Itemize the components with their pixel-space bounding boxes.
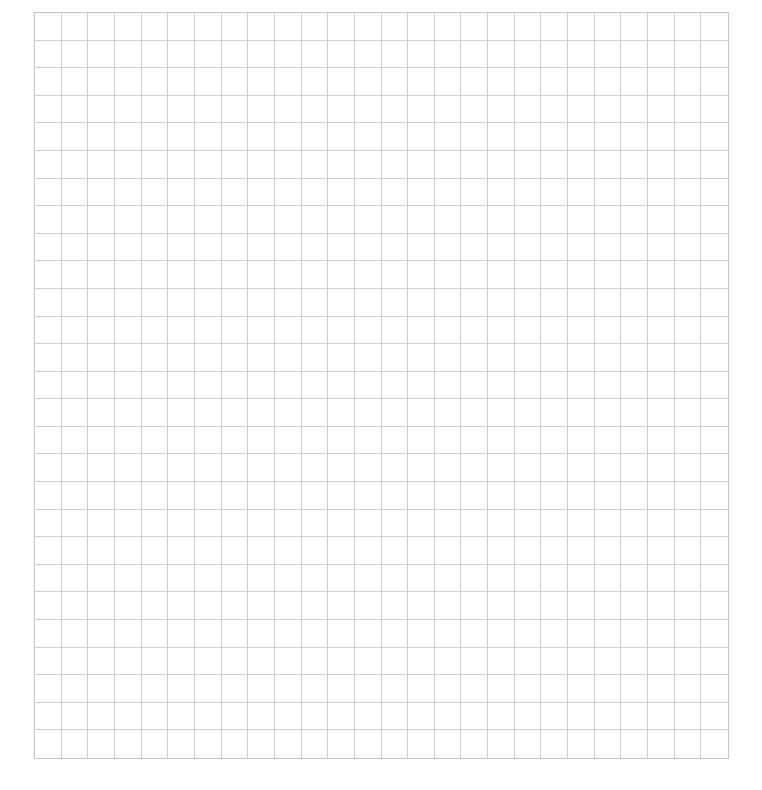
grid-cell [648, 179, 675, 207]
grid-cell [115, 261, 142, 289]
grid-cell [328, 179, 355, 207]
grid-cell [568, 206, 595, 234]
grid-cell [541, 68, 568, 96]
grid-cell [195, 592, 222, 620]
grid-cell [701, 427, 728, 455]
grid-cell [355, 648, 382, 676]
grid-cell [302, 565, 329, 593]
grid-cell [328, 151, 355, 179]
grid-cell [701, 13, 728, 41]
grid-cell [461, 234, 488, 262]
grid-cell [408, 675, 435, 703]
grid-cell [568, 620, 595, 648]
grid-cell [88, 510, 115, 538]
grid-cell [195, 96, 222, 124]
grid-cell [248, 123, 275, 151]
grid-cell [328, 123, 355, 151]
grid-cell [541, 41, 568, 69]
grid-cell [675, 565, 702, 593]
grid-cell [222, 372, 249, 400]
grid-cell [648, 317, 675, 345]
grid-cell [222, 206, 249, 234]
grid-cell [382, 620, 409, 648]
grid-cell [168, 344, 195, 372]
grid-cell [648, 289, 675, 317]
grid-cell [488, 123, 515, 151]
grid-cell [435, 123, 462, 151]
grid-cell [541, 648, 568, 676]
grid-cell [222, 151, 249, 179]
grid-cell [35, 482, 62, 510]
grid-cell [168, 510, 195, 538]
grid-cell [328, 730, 355, 758]
grid-cell [541, 344, 568, 372]
grid-cell [568, 123, 595, 151]
grid-cell [461, 399, 488, 427]
grid-cell [621, 151, 648, 179]
grid-cell [142, 179, 169, 207]
grid-cell [275, 482, 302, 510]
grid-cell [648, 510, 675, 538]
grid-cell [275, 565, 302, 593]
grid-cell [248, 399, 275, 427]
grid-cell [515, 730, 542, 758]
grid-cell [115, 317, 142, 345]
grid-cell [515, 344, 542, 372]
grid-cell [648, 41, 675, 69]
grid-cell [515, 703, 542, 731]
grid-cell [88, 592, 115, 620]
grid-cell [62, 482, 89, 510]
grid-cell [515, 123, 542, 151]
grid-cell [541, 206, 568, 234]
grid-cell [461, 41, 488, 69]
grid-cell [515, 234, 542, 262]
grid-cell [275, 399, 302, 427]
grid-cell [488, 620, 515, 648]
grid-cell [222, 13, 249, 41]
grid-cell [435, 510, 462, 538]
grid-cell [488, 675, 515, 703]
grid-cell [248, 289, 275, 317]
grid-cell [595, 399, 622, 427]
grid-cell [355, 675, 382, 703]
grid-cell [142, 537, 169, 565]
grid-cell [328, 537, 355, 565]
grid-cell [328, 13, 355, 41]
grid-cell [328, 41, 355, 69]
grid-cell [621, 703, 648, 731]
grid-cell [382, 96, 409, 124]
grid-cell [648, 13, 675, 41]
grid-cell [62, 703, 89, 731]
grid-cell [88, 482, 115, 510]
grid-cell [88, 151, 115, 179]
grid-cell [88, 206, 115, 234]
grid-cell [355, 317, 382, 345]
grid-cell [541, 151, 568, 179]
grid-cell [595, 454, 622, 482]
grid-cell [355, 123, 382, 151]
grid-cell [35, 372, 62, 400]
grid-cell [515, 179, 542, 207]
grid-cell [275, 427, 302, 455]
grid-cell [382, 565, 409, 593]
grid-cell [62, 13, 89, 41]
grid-cell [35, 730, 62, 758]
grid-cell [648, 565, 675, 593]
grid-cell [62, 427, 89, 455]
grid-cell [275, 537, 302, 565]
grid-cell [302, 41, 329, 69]
grid-cell [408, 510, 435, 538]
grid-cell [248, 261, 275, 289]
grid-cell [355, 620, 382, 648]
grid-cell [382, 289, 409, 317]
grid-cell [435, 703, 462, 731]
grid-cell [88, 123, 115, 151]
grid-cell [595, 675, 622, 703]
grid-cell [88, 427, 115, 455]
grid-cell [621, 261, 648, 289]
grid-cell [302, 68, 329, 96]
grid-cell [88, 41, 115, 69]
grid-cell [275, 675, 302, 703]
grid-cell [142, 96, 169, 124]
grid-cell [355, 537, 382, 565]
